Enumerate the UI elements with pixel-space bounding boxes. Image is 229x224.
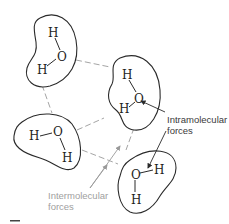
water-molecule-middle-left: H O H xyxy=(14,114,81,170)
hydrogen-atom: H xyxy=(29,129,39,143)
intramolecular-label: Intramolecular xyxy=(167,114,227,125)
hydrogen-atom: H xyxy=(119,102,129,116)
water-molecule-top-left: H O H xyxy=(26,15,76,87)
hydrogen-atom: H xyxy=(154,163,164,177)
water-molecule-bottom-right: O H H xyxy=(118,151,176,213)
corner-mark xyxy=(10,220,20,222)
oxygen-atom: O xyxy=(53,125,63,139)
hydrogen-atom: H xyxy=(37,63,47,77)
water-molecule-center-right: H O H xyxy=(109,56,161,130)
hydrogen-atom: H xyxy=(48,26,58,40)
intramolecular-label-line2: forces xyxy=(167,125,193,136)
water-forces-diagram: H O H H O H H O H O H H Intramol xyxy=(0,0,229,224)
hydrogen-atom: H xyxy=(122,68,132,82)
hydrogen-atom: H xyxy=(131,193,141,207)
oxygen-atom: O xyxy=(57,50,67,64)
intermolecular-label: Intermolecular xyxy=(48,190,108,201)
intermolecular-arrows xyxy=(90,146,120,188)
intermolecular-label-line2: forces xyxy=(48,201,74,212)
hydrogen-atom: H xyxy=(62,151,72,165)
oxygen-atom: O xyxy=(134,92,144,106)
oxygen-atom: O xyxy=(131,168,141,182)
